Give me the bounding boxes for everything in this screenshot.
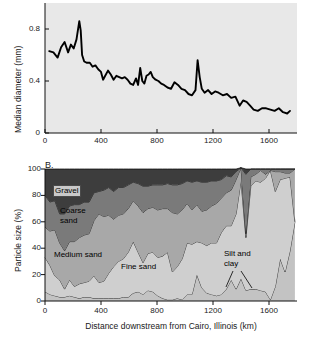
panel-b-ytick: 40 — [19, 243, 41, 252]
annotation-medium-sand: Medium sand — [54, 250, 102, 260]
annotation-fine-sand: Fine sand — [121, 262, 156, 272]
panel-a-xtick: 1200 — [203, 136, 223, 145]
panel-b-xtick: 400 — [91, 306, 111, 315]
panel-a-ytick: 0.4 — [22, 76, 40, 85]
panel-a-xtick: 1600 — [259, 136, 279, 145]
annotation-silt-and-clay: Silt and clay — [224, 249, 251, 268]
panel-b-ytick: 80 — [19, 190, 41, 199]
panel-b-xtick: 800 — [147, 306, 167, 315]
panel-b-xtick: 1200 — [203, 306, 223, 315]
panel-b-xtick: 1600 — [259, 306, 279, 315]
annotation-coarse-sand: Coarse sand — [60, 206, 86, 225]
panel-b-ytick: 20 — [19, 270, 41, 279]
panel-b-particle-size: B. Particle size (%) 020406080100 040080… — [0, 155, 312, 339]
panel-a-plot — [0, 0, 312, 152]
panel-b-ytick: 60 — [19, 217, 41, 226]
figure-sediment-downstream: Median diameter (mm) 00.40.8 04008001200… — [0, 0, 312, 339]
panel-b-xtick: 0 — [35, 306, 55, 315]
panel-a-xtick: 0 — [35, 136, 55, 145]
panel-a-median-diameter: Median diameter (mm) 00.40.8 04008001200… — [0, 0, 312, 152]
panel-a-xtick: 400 — [91, 136, 111, 145]
panel-b-ytick: 100 — [19, 164, 41, 173]
panel-b-letter: B. — [45, 160, 54, 170]
panel-b-ytick: 0 — [19, 296, 41, 305]
panel-a-xtick: 800 — [147, 136, 167, 145]
panel-a-ytick: 0.8 — [22, 24, 40, 33]
annotation-gravel: Gravel — [53, 185, 81, 197]
panel-a-y-axis-label: Median diameter (mm) — [13, 46, 23, 134]
panel-b-stacked-areas — [45, 168, 295, 301]
panel-b-x-axis-label: Distance downstream from Cairo, Illinois… — [45, 321, 297, 331]
